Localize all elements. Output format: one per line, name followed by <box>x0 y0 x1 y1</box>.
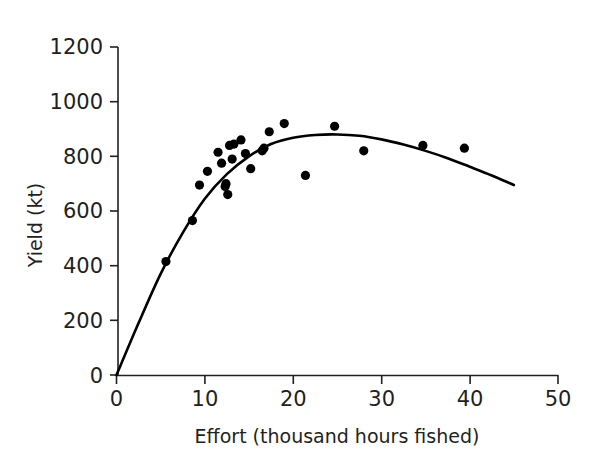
y-tick-label-1000: 1000 <box>50 90 103 114</box>
y-axis-title: Yield (kt) <box>24 183 46 269</box>
y-tick-label-0: 0 <box>90 364 103 388</box>
x-tick-label-50: 50 <box>545 387 572 411</box>
data-point <box>221 179 230 188</box>
data-point <box>359 146 368 155</box>
yield-effort-scatter-plot: 1200 1000 800 600 400 200 0 0 10 20 30 4… <box>0 0 596 464</box>
data-point <box>241 149 250 158</box>
x-tick-label-0: 0 <box>110 387 123 411</box>
x-axis-tick-labels: 0 10 20 30 40 50 <box>110 387 572 411</box>
x-tick-label-30: 30 <box>368 387 395 411</box>
data-point <box>228 154 237 163</box>
x-tick-label-20: 20 <box>280 387 307 411</box>
data-point <box>330 122 339 131</box>
data-point-group <box>161 119 469 266</box>
plot-axes <box>116 47 558 376</box>
y-tick-label-200: 200 <box>63 309 103 333</box>
data-point <box>265 127 274 136</box>
x-tick-label-10: 10 <box>192 387 219 411</box>
data-point <box>213 148 222 157</box>
x-axis-ticks <box>117 375 559 384</box>
fitted-yield-curve <box>117 134 514 375</box>
x-axis-title: Effort (thousand hours fished) <box>195 425 480 447</box>
data-point <box>223 190 232 199</box>
data-point <box>280 119 289 128</box>
data-point <box>301 171 310 180</box>
data-point <box>161 257 170 266</box>
y-tick-label-800: 800 <box>63 145 103 169</box>
data-point <box>195 180 204 189</box>
data-point <box>460 144 469 153</box>
data-point <box>203 167 212 176</box>
chart-figure: 1200 1000 800 600 400 200 0 0 10 20 30 4… <box>0 0 596 464</box>
y-axis-ticks <box>110 47 118 375</box>
y-tick-label-1200: 1200 <box>50 35 103 59</box>
data-point <box>217 159 226 168</box>
data-point <box>236 135 245 144</box>
data-point <box>188 216 197 225</box>
data-point <box>246 164 255 173</box>
x-tick-label-40: 40 <box>457 387 484 411</box>
y-tick-label-400: 400 <box>63 254 103 278</box>
y-tick-label-600: 600 <box>63 199 103 223</box>
data-point <box>418 141 427 150</box>
y-axis-tick-labels: 1200 1000 800 600 400 200 0 <box>50 35 103 388</box>
data-point <box>259 144 268 153</box>
